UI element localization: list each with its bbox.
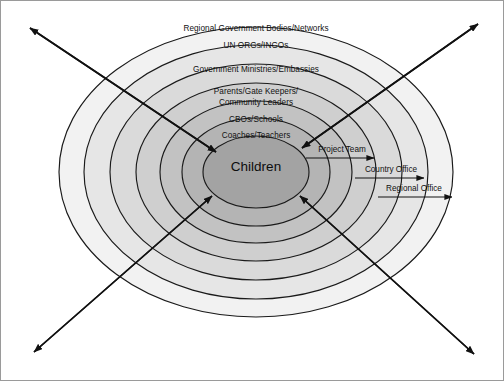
ring-1-label: Regional Government Bodies/Networks: [183, 24, 328, 33]
callout-3-label: Regional Office: [386, 184, 442, 193]
callout-1-label: Project Team: [318, 145, 366, 154]
concentric-circles-diagram: Regional Government Bodies/Networks UN O…: [0, 0, 504, 381]
ring-4-label-line1: Parents/Gate Keepers/: [214, 87, 299, 96]
diagram-canvas: Regional Government Bodies/Networks UN O…: [0, 0, 504, 381]
ring-3-label: Government Ministries/Embassies: [193, 65, 319, 74]
ring-4-label-line2: Community Leaders: [219, 98, 293, 107]
ring-2-label: UN ORGs/INGOs: [224, 41, 289, 50]
ring-5-label: CBOs/Schools: [229, 115, 283, 124]
ring-6-label: Coaches/Teachers: [222, 131, 291, 140]
center-label: Children: [231, 159, 281, 174]
callout-2-label: Country Office: [365, 165, 418, 174]
